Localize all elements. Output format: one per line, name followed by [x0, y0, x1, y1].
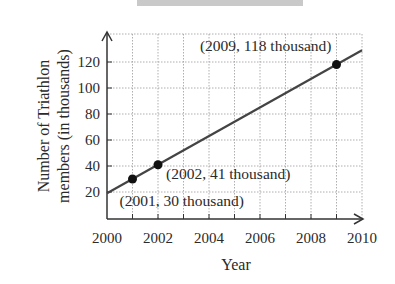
y-tick-label: 80 [85, 106, 100, 122]
y-tick-label: 40 [85, 158, 100, 174]
point-annotation: (2009, 118 thousand) [200, 37, 332, 55]
x-axis-title: Year [221, 256, 251, 273]
y-tick-label: 120 [78, 54, 101, 70]
x-tick-labels: 200020022004200620082010 [92, 230, 377, 246]
y-tick-label: 60 [85, 132, 100, 148]
point-annotation: (2001, 30 thousand) [120, 192, 244, 210]
x-tick-label: 2002 [143, 230, 173, 246]
y-tick-labels: 20406080100120 [78, 54, 101, 200]
data-point [332, 60, 341, 69]
y-axis-title-line-2: members (in thousands) [55, 49, 73, 203]
y-tick-label: 20 [85, 184, 100, 200]
y-tick-label: 100 [78, 80, 101, 96]
x-tick-label: 2000 [92, 230, 122, 246]
y-axis-title: Number of Triathlon members (in thousand… [35, 49, 73, 203]
y-axis-title-line-1: Number of Triathlon [35, 60, 52, 192]
chart: 200020022004200620082010 20406080100120 … [0, 0, 395, 284]
data-point [154, 160, 163, 169]
x-tick-label: 2010 [347, 230, 377, 246]
x-tick-label: 2006 [245, 230, 276, 246]
point-annotation: (2002, 41 thousand) [166, 165, 290, 183]
x-tick-label: 2004 [194, 230, 225, 246]
data-point [128, 175, 137, 184]
x-tick-label: 2008 [296, 230, 326, 246]
point-annotations: (2001, 30 thousand)(2002, 41 thousand)(2… [120, 37, 332, 210]
